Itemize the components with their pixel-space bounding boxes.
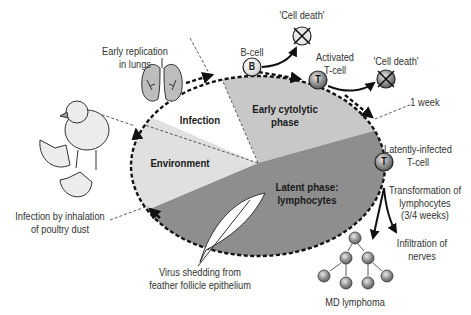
phase-infection-label: Infection xyxy=(174,114,227,127)
cell-death-label-2: 'Cell death' xyxy=(361,55,431,68)
b-cell-label: B-cell xyxy=(234,46,269,59)
b-cell-glyph: B xyxy=(243,61,261,74)
inhalation-label: Infection by inhalationof poultry dust xyxy=(12,210,109,235)
phase-latent-label: Latent phase:lymphocytes xyxy=(267,181,346,206)
activated-t-cell-label: ActivatedT-cell xyxy=(304,51,366,76)
chick-icon xyxy=(40,101,109,197)
md-lymphoma-label: MD lymphoma xyxy=(320,296,390,309)
phase-environment-label: Environment xyxy=(145,157,215,170)
early-replication-label: Early replicationin lungs xyxy=(87,45,184,70)
infiltration-label: Infiltration ofnerves xyxy=(387,237,457,262)
phase-early-cytolytic-label: Early cytolyticphase xyxy=(250,103,320,128)
latent-t-glyph: T xyxy=(375,156,393,169)
cell-death-icon xyxy=(377,70,395,88)
one-week-label: 1 week xyxy=(403,96,447,109)
transformation-label: Transformation oflymphocytes(3/4 weeks) xyxy=(381,184,469,222)
cell-death-label-1: 'Cell death' xyxy=(267,9,337,22)
activated-t-glyph: T xyxy=(309,74,327,87)
cell-death-icon xyxy=(293,27,311,45)
virus-shedding-label: Virus shedding fromfeather follicle epit… xyxy=(147,266,253,291)
